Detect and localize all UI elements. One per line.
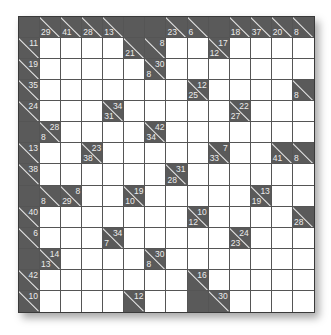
entry-cell[interactable] bbox=[82, 228, 103, 249]
entry-cell[interactable] bbox=[251, 59, 272, 80]
entry-cell[interactable] bbox=[251, 80, 272, 101]
entry-cell[interactable] bbox=[293, 228, 314, 249]
entry-cell[interactable] bbox=[82, 101, 103, 122]
entry-cell[interactable] bbox=[61, 101, 82, 122]
entry-cell[interactable] bbox=[251, 143, 272, 164]
entry-cell[interactable] bbox=[166, 59, 187, 80]
entry-cell[interactable] bbox=[145, 80, 166, 101]
entry-cell[interactable] bbox=[103, 122, 124, 143]
entry-cell[interactable] bbox=[145, 164, 166, 185]
entry-cell[interactable] bbox=[40, 80, 61, 101]
entry-cell[interactable] bbox=[209, 101, 230, 122]
entry-cell[interactable] bbox=[82, 291, 103, 312]
entry-cell[interactable] bbox=[103, 207, 124, 228]
entry-cell[interactable] bbox=[166, 249, 187, 270]
entry-cell[interactable] bbox=[209, 207, 230, 228]
entry-cell[interactable] bbox=[293, 249, 314, 270]
entry-cell[interactable] bbox=[230, 143, 251, 164]
entry-cell[interactable] bbox=[40, 228, 61, 249]
entry-cell[interactable] bbox=[166, 101, 187, 122]
entry-cell[interactable] bbox=[251, 101, 272, 122]
entry-cell[interactable] bbox=[209, 122, 230, 143]
entry-cell[interactable] bbox=[103, 143, 124, 164]
entry-cell[interactable] bbox=[251, 249, 272, 270]
entry-cell[interactable] bbox=[293, 59, 314, 80]
entry-cell[interactable] bbox=[166, 38, 187, 59]
entry-cell[interactable] bbox=[124, 207, 145, 228]
entry-cell[interactable] bbox=[230, 291, 251, 312]
entry-cell[interactable] bbox=[188, 249, 209, 270]
entry-cell[interactable] bbox=[166, 80, 187, 101]
entry-cell[interactable] bbox=[40, 207, 61, 228]
entry-cell[interactable] bbox=[272, 228, 293, 249]
entry-cell[interactable] bbox=[188, 59, 209, 80]
entry-cell[interactable] bbox=[40, 143, 61, 164]
entry-cell[interactable] bbox=[209, 186, 230, 207]
entry-cell[interactable] bbox=[251, 122, 272, 143]
entry-cell[interactable] bbox=[82, 80, 103, 101]
entry-cell[interactable] bbox=[230, 59, 251, 80]
entry-cell[interactable] bbox=[230, 186, 251, 207]
entry-cell[interactable] bbox=[40, 59, 61, 80]
entry-cell[interactable] bbox=[61, 164, 82, 185]
entry-cell[interactable] bbox=[272, 291, 293, 312]
entry-cell[interactable] bbox=[293, 164, 314, 185]
entry-cell[interactable] bbox=[272, 207, 293, 228]
entry-cell[interactable] bbox=[103, 164, 124, 185]
entry-cell[interactable] bbox=[188, 164, 209, 185]
entry-cell[interactable] bbox=[230, 80, 251, 101]
entry-cell[interactable] bbox=[272, 80, 293, 101]
entry-cell[interactable] bbox=[145, 101, 166, 122]
entry-cell[interactable] bbox=[82, 270, 103, 291]
entry-cell[interactable] bbox=[230, 164, 251, 185]
entry-cell[interactable] bbox=[166, 291, 187, 312]
entry-cell[interactable] bbox=[166, 228, 187, 249]
entry-cell[interactable] bbox=[209, 270, 230, 291]
entry-cell[interactable] bbox=[61, 38, 82, 59]
entry-cell[interactable] bbox=[82, 59, 103, 80]
entry-cell[interactable] bbox=[124, 164, 145, 185]
entry-cell[interactable] bbox=[166, 270, 187, 291]
entry-cell[interactable] bbox=[188, 186, 209, 207]
entry-cell[interactable] bbox=[166, 186, 187, 207]
entry-cell[interactable] bbox=[61, 143, 82, 164]
entry-cell[interactable] bbox=[61, 80, 82, 101]
entry-cell[interactable] bbox=[124, 249, 145, 270]
entry-cell[interactable] bbox=[272, 270, 293, 291]
entry-cell[interactable] bbox=[61, 228, 82, 249]
entry-cell[interactable] bbox=[103, 38, 124, 59]
entry-cell[interactable] bbox=[40, 38, 61, 59]
entry-cell[interactable] bbox=[82, 186, 103, 207]
entry-cell[interactable] bbox=[145, 143, 166, 164]
entry-cell[interactable] bbox=[188, 101, 209, 122]
entry-cell[interactable] bbox=[251, 270, 272, 291]
entry-cell[interactable] bbox=[124, 143, 145, 164]
entry-cell[interactable] bbox=[166, 143, 187, 164]
entry-cell[interactable] bbox=[82, 164, 103, 185]
entry-cell[interactable] bbox=[188, 122, 209, 143]
entry-cell[interactable] bbox=[124, 59, 145, 80]
entry-cell[interactable] bbox=[230, 207, 251, 228]
entry-cell[interactable] bbox=[188, 38, 209, 59]
entry-cell[interactable] bbox=[124, 270, 145, 291]
entry-cell[interactable] bbox=[124, 80, 145, 101]
entry-cell[interactable] bbox=[166, 122, 187, 143]
entry-cell[interactable] bbox=[61, 249, 82, 270]
entry-cell[interactable] bbox=[61, 59, 82, 80]
entry-cell[interactable] bbox=[209, 59, 230, 80]
entry-cell[interactable] bbox=[272, 122, 293, 143]
entry-cell[interactable] bbox=[251, 164, 272, 185]
entry-cell[interactable] bbox=[293, 38, 314, 59]
entry-cell[interactable] bbox=[103, 270, 124, 291]
entry-cell[interactable] bbox=[40, 101, 61, 122]
entry-cell[interactable] bbox=[103, 291, 124, 312]
entry-cell[interactable] bbox=[209, 164, 230, 185]
entry-cell[interactable] bbox=[145, 270, 166, 291]
entry-cell[interactable] bbox=[61, 270, 82, 291]
entry-cell[interactable] bbox=[230, 38, 251, 59]
entry-cell[interactable] bbox=[103, 59, 124, 80]
entry-cell[interactable] bbox=[61, 122, 82, 143]
entry-cell[interactable] bbox=[251, 291, 272, 312]
entry-cell[interactable] bbox=[209, 228, 230, 249]
entry-cell[interactable] bbox=[251, 228, 272, 249]
